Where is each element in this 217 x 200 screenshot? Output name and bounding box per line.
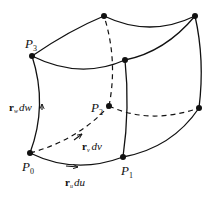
vertex-back-right-mid <box>196 105 202 111</box>
vertex-p2 <box>106 103 112 109</box>
label-rv-dv: rvdv <box>82 140 102 153</box>
label-ru-du: rudu <box>65 176 85 189</box>
label-p2: P2 <box>90 100 103 117</box>
vertex-p1 <box>120 154 126 160</box>
label-p3: P3 <box>24 36 37 53</box>
vertex-p3 <box>29 53 35 59</box>
label-rw-dw: rwdw <box>9 101 32 114</box>
point-labels: P3 P2 P0 P1 <box>21 36 133 180</box>
edge-top-front-right-back <box>125 16 195 60</box>
arrow-dv-icon <box>74 134 82 140</box>
edge-p3-top-back-left <box>32 16 104 56</box>
edge-p1-top-front-right <box>123 60 127 157</box>
label-p1: P1 <box>120 163 133 180</box>
vertex-p0 <box>27 150 33 156</box>
volume-element-diagram: P3 P2 P0 P1 rwdw rvdv rudu <box>0 0 217 200</box>
solid-edges <box>30 16 201 165</box>
edge-p1-back-right <box>123 108 199 157</box>
edge-top-back-left-right <box>104 16 195 27</box>
arrow-du-icon <box>66 166 78 167</box>
vector-labels: rwdw rvdv rudu <box>9 101 102 189</box>
vertex-top-front-right <box>122 57 128 63</box>
vector-arrows <box>42 104 82 167</box>
vertex-top-back-right <box>192 13 198 19</box>
edge-p0-p1 <box>30 153 123 165</box>
edge-p3-top-front-right <box>32 56 125 69</box>
edge-p2-top-back-left-dashed <box>104 16 113 106</box>
edge-back-right-vertical <box>195 16 201 108</box>
vertex-top-back-left <box>101 13 107 19</box>
label-p0: P0 <box>21 159 34 176</box>
edge-p2-back-right-dashed <box>109 106 199 116</box>
